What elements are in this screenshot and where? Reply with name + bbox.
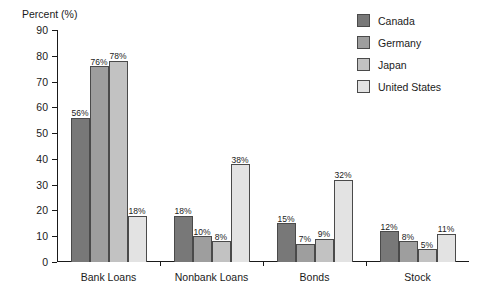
bar-value-label: 8% <box>402 233 414 242</box>
y-axis-tick-label: 0 <box>42 256 48 268</box>
y-axis-tick-label: 10 <box>36 230 48 242</box>
bar-united-states[interactable]: 38% <box>231 164 250 262</box>
bar-group: 18%10%8%38%Nonbank Loans <box>160 30 263 262</box>
y-axis-tick-label: 20 <box>36 204 48 216</box>
bar-value-label: 38% <box>231 156 248 165</box>
bar-value-label: 10% <box>193 228 210 237</box>
x-axis-group-separator <box>160 262 161 266</box>
bar-japan[interactable]: 5% <box>418 249 437 262</box>
legend-item-united-states[interactable]: United States <box>357 80 441 93</box>
x-axis-category-label: Bonds <box>300 271 330 283</box>
bar-canada[interactable]: 18% <box>174 216 193 262</box>
y-axis-tick-label: 70 <box>36 76 48 88</box>
bar-germany[interactable]: 7% <box>296 244 315 262</box>
bar-value-label: 12% <box>380 223 397 232</box>
bar-japan[interactable]: 78% <box>109 61 128 262</box>
bar-value-label: 78% <box>109 52 126 61</box>
bar-value-label: 8% <box>215 233 227 242</box>
legend-swatch-united-states <box>357 80 370 93</box>
x-axis-category-label: Stock <box>404 271 430 283</box>
bar-japan[interactable]: 9% <box>315 239 334 262</box>
bar-value-label: 18% <box>128 207 145 216</box>
bar-group: 15%7%9%32%Bonds <box>263 30 366 262</box>
y-axis-tick-label: 40 <box>36 153 48 165</box>
x-axis-group-separator <box>263 262 264 266</box>
bar-group: 56%76%78%18%Bank Loans <box>57 30 160 262</box>
bar-value-label: 56% <box>71 109 88 118</box>
bar-value-label: 5% <box>421 241 433 250</box>
legend-swatch-germany <box>357 36 370 49</box>
bar-value-label: 32% <box>334 171 351 180</box>
bar-value-label: 11% <box>438 225 454 234</box>
bar-value-label: 7% <box>299 235 311 244</box>
bar-united-states[interactable]: 11% <box>437 234 456 262</box>
bar-germany[interactable]: 10% <box>193 236 212 262</box>
bar-value-label: 76% <box>90 58 107 67</box>
bar-japan[interactable]: 8% <box>212 241 231 262</box>
chart-legend: CanadaGermanyJapanUnited States <box>357 14 441 93</box>
bar-canada[interactable]: 15% <box>277 223 296 262</box>
bar-united-states[interactable]: 18% <box>128 216 147 262</box>
legend-label: Canada <box>378 15 415 27</box>
bar-group-bars: 56%76%78%18% <box>57 30 160 262</box>
legend-swatch-japan <box>357 58 370 71</box>
bar-value-label: 18% <box>174 207 191 216</box>
legend-label: Germany <box>378 37 421 49</box>
x-axis-group-separator <box>366 262 367 266</box>
y-axis-tick-label: 50 <box>36 127 48 139</box>
legend-item-germany[interactable]: Germany <box>357 36 441 49</box>
bar-value-label: 15% <box>277 215 294 224</box>
bar-united-states[interactable]: 32% <box>334 180 353 262</box>
bar-germany[interactable]: 8% <box>399 241 418 262</box>
bar-group-bars: 15%7%9%32% <box>263 30 366 262</box>
y-axis-tick-label: 80 <box>36 50 48 62</box>
legend-item-canada[interactable]: Canada <box>357 14 441 27</box>
bar-germany[interactable]: 76% <box>90 66 109 262</box>
y-axis-tick <box>52 262 57 263</box>
y-axis-tick-label: 30 <box>36 179 48 191</box>
bar-value-label: 9% <box>318 230 330 239</box>
legend-item-japan[interactable]: Japan <box>357 58 441 71</box>
bar-canada[interactable]: 12% <box>380 231 399 262</box>
bar-chart: Percent (%) 0102030405060708090 56%76%78… <box>0 0 483 295</box>
legend-label: United States <box>378 81 441 93</box>
x-axis-category-label: Nonbank Loans <box>175 271 249 283</box>
bar-group-bars: 18%10%8%38% <box>160 30 263 262</box>
legend-label: Japan <box>378 59 407 71</box>
y-axis-tick-label: 90 <box>36 24 48 36</box>
legend-swatch-canada <box>357 14 370 27</box>
x-axis-category-label: Bank Loans <box>81 271 136 283</box>
y-axis-title: Percent (%) <box>22 8 77 20</box>
bar-canada[interactable]: 56% <box>71 118 90 262</box>
y-axis-tick-label: 60 <box>36 101 48 113</box>
